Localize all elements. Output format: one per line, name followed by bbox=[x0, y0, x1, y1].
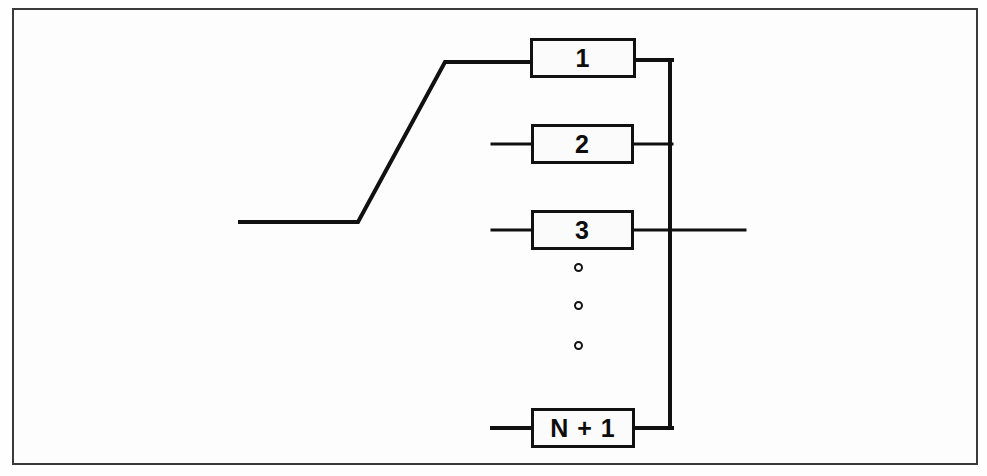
block-2[interactable]: 2 bbox=[531, 124, 634, 164]
block-1[interactable]: 1 bbox=[530, 38, 636, 78]
block-3[interactable]: 3 bbox=[531, 210, 634, 250]
block-2-label: 2 bbox=[575, 130, 590, 159]
input-line bbox=[240, 62, 530, 222]
block-n-plus-1-label: N + 1 bbox=[550, 414, 615, 443]
block-3-label: 3 bbox=[575, 216, 590, 245]
block-1-label: 1 bbox=[576, 44, 591, 73]
diagram-canvas: 1 2 3 N + 1 bbox=[0, 0, 987, 476]
diagram-wiring-layer bbox=[0, 0, 987, 476]
ellipsis-dot-1 bbox=[574, 263, 583, 272]
ellipsis-dot-3 bbox=[574, 341, 583, 350]
ellipsis-dot-2 bbox=[574, 301, 583, 310]
block-n-plus-1[interactable]: N + 1 bbox=[531, 408, 635, 448]
